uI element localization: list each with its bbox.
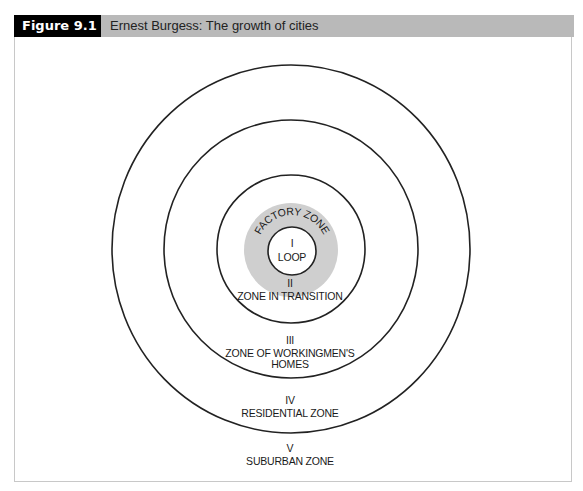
zone-ii-name: ZONE IN TRANSITION xyxy=(237,290,342,302)
zone-iv-numeral: IV xyxy=(285,394,295,406)
zone-iii-numeral: III xyxy=(286,334,294,346)
zone-v-numeral: V xyxy=(287,442,294,454)
zone-iv-name: RESIDENTIAL ZONE xyxy=(241,407,339,419)
zone-iii-name-line2: HOMES xyxy=(271,358,309,370)
concentric-zone-diagram: FACTORY ZONE I LOOP II ZONE IN TRANSITIO… xyxy=(0,0,583,491)
zone-i-numeral: I xyxy=(291,237,294,249)
zone-v-name: SUBURBAN ZONE xyxy=(246,455,334,467)
zone-ii-numeral: II xyxy=(287,277,292,289)
zone-i-name: LOOP xyxy=(278,251,307,263)
